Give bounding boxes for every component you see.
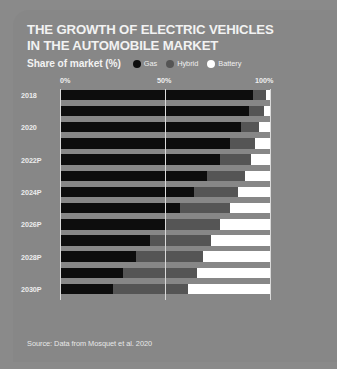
legend-label: Gas [144, 59, 157, 68]
y-axis-category-label: 2028P [21, 253, 42, 262]
screenshot-root: THE GROWTH OF ELECTRIC VEHICLES IN THE A… [0, 0, 337, 369]
bar-row: 2022P [13, 154, 337, 170]
legend-swatch-hybrid-icon [166, 60, 174, 68]
bar-segment-battery [188, 284, 270, 295]
bar-segment-gas [60, 284, 113, 295]
legend-swatch-gas-icon [133, 60, 141, 68]
legend-label: Battery [218, 59, 241, 68]
bar-segment-battery [259, 122, 270, 133]
bar-segment-gas [60, 187, 194, 198]
subtitle-legend-row: Share of market (%) GasHybridBattery [27, 58, 241, 69]
bar-segment-hybrid [165, 219, 220, 230]
bar-row [13, 105, 337, 121]
bar-segment-hybrid [194, 187, 238, 198]
y-axis-category-label: 2020 [21, 123, 37, 132]
bar-segment-gas [60, 154, 220, 165]
bar-segment-hybrid [230, 138, 255, 149]
bar-segment-hybrid [180, 203, 230, 214]
bar-segment-battery [197, 268, 271, 279]
x-axis-tick-labels: 0%50%100% [13, 76, 337, 90]
bar-row [13, 267, 337, 283]
bar-segment-hybrid [249, 106, 264, 117]
legend-label: Hybrid [177, 59, 198, 68]
y-axis-category-label: 2024P [21, 188, 42, 197]
legend-swatch-battery-icon [207, 60, 215, 68]
bar-segment-gas [60, 219, 165, 230]
y-axis-category-label: 2026P [21, 220, 42, 229]
bar-segment-gas [60, 235, 150, 246]
y-axis-category-label: 2022P [21, 156, 42, 165]
bar-row [13, 170, 337, 186]
bar-segment-hybrid [241, 122, 260, 133]
bar-segment-battery [220, 219, 270, 230]
bar-segment-hybrid [220, 154, 252, 165]
bar-row: 2018 [13, 89, 337, 105]
gridline [165, 89, 166, 300]
bar-segment-gas [60, 171, 207, 182]
bar-segment-battery [255, 138, 270, 149]
y-axis-category-label: 2018 [21, 91, 37, 100]
bar-segment-battery [230, 203, 270, 214]
bar-row: 2030P [13, 283, 337, 299]
x-tick-label: 0% [60, 76, 70, 85]
bar-segment-gas [60, 138, 230, 149]
bar-row: 2020 [13, 121, 337, 137]
chart-subtitle: Share of market (%) [27, 58, 121, 69]
bar-row [13, 138, 337, 154]
bar-segment-battery [203, 251, 270, 262]
source-note: Source: Data from Mosquet et al. 2020 [27, 339, 152, 348]
bar-segment-hybrid [253, 90, 266, 101]
chart-plot-area: 0%50%100% 201820202022P2024P2026P2028P20… [13, 76, 337, 320]
gridline [270, 89, 271, 300]
gridline [60, 89, 61, 300]
bar-row: 2028P [13, 251, 337, 267]
bar-segment-hybrid [150, 235, 211, 246]
legend-item-battery: Battery [207, 59, 241, 68]
x-tick-label: 100% [255, 76, 273, 85]
x-tick-label: 50% [157, 76, 171, 85]
bar-segment-gas [60, 203, 180, 214]
bar-segment-hybrid [136, 251, 203, 262]
bar-segment-gas [60, 122, 241, 133]
bar-row: 2026P [13, 219, 337, 235]
bar-segment-battery [238, 187, 270, 198]
bar-rows: 201820202022P2024P2026P2028P2030P [13, 89, 337, 300]
bar-segment-gas [60, 268, 123, 279]
bar-segment-battery [251, 154, 270, 165]
bar-row [13, 202, 337, 218]
bar-segment-gas [60, 90, 253, 101]
infographic-card: THE GROWTH OF ELECTRIC VEHICLES IN THE A… [13, 10, 337, 362]
y-axis-category-label: 2030P [21, 285, 42, 294]
bar-segment-gas [60, 106, 249, 117]
bar-segment-hybrid [123, 268, 197, 279]
bar-segment-hybrid [207, 171, 245, 182]
bar-segment-battery [211, 235, 270, 246]
page-title: THE GROWTH OF ELECTRIC VEHICLES IN THE A… [27, 22, 277, 53]
bar-segment-hybrid [113, 284, 189, 295]
bar-segment-gas [60, 251, 136, 262]
bar-row: 2024P [13, 186, 337, 202]
bar-row [13, 235, 337, 251]
chart-legend: GasHybridBattery [133, 59, 242, 68]
legend-item-hybrid: Hybrid [166, 59, 198, 68]
legend-item-gas: Gas [133, 59, 157, 68]
bar-segment-battery [245, 171, 270, 182]
